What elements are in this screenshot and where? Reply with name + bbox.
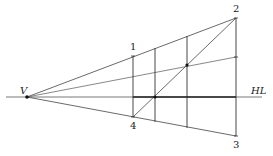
intersection-dot-b <box>185 63 188 66</box>
label-4: 4 <box>130 120 136 131</box>
label-hl: HL <box>250 85 267 96</box>
ray-v-to-mid <box>27 57 236 97</box>
label-1: 1 <box>130 41 136 52</box>
diagram-svg: V HL 1 2 3 4 <box>0 0 273 156</box>
ray-v-to-2 <box>27 18 236 97</box>
diagonal-4-2 <box>133 18 236 117</box>
intersection-dot-a <box>153 95 156 98</box>
label-2: 2 <box>233 3 239 14</box>
label-3: 3 <box>233 139 239 150</box>
label-v: V <box>20 85 29 96</box>
perspective-diagram: V HL 1 2 3 4 <box>0 0 273 156</box>
